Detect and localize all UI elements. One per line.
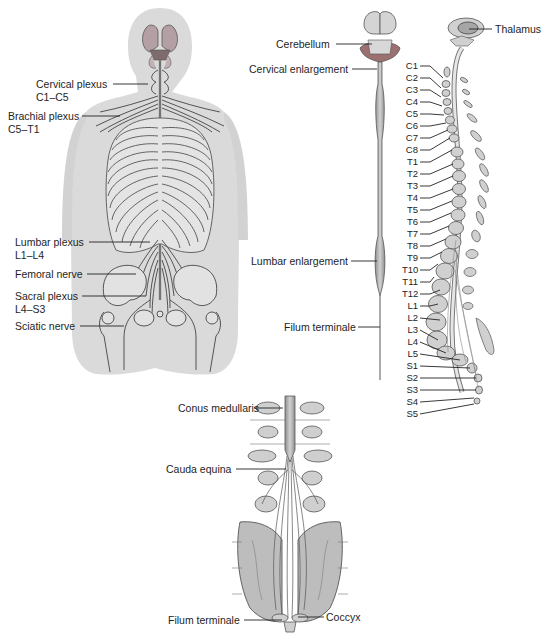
label-sublevel: L1–L4 [15,249,84,262]
vertebral-level-label: L3 [402,324,418,335]
label-thalamus: Thalamus [495,23,541,36]
vertebral-level-label: S1 [402,360,418,371]
label-text: Sacral plexus [15,290,78,303]
label-filum-terminale-cord: Filum terminale [284,321,356,334]
label-coccyx: Coccyx [326,611,360,624]
label-sciatic-nerve: Sciatic nerve [15,320,75,333]
vertebral-level-label: C6 [402,120,418,131]
vertebral-level-label: S4 [402,396,418,407]
label-femoral-nerve: Femoral nerve [15,268,83,281]
label-conus-medullaris: Conus medullaris [178,402,259,415]
label-sublevel: C1–C5 [36,91,107,104]
label-brachial-plexus: Brachial plexus C5–T1 [8,110,79,136]
vertebral-level-label: T7 [402,228,418,239]
vertebral-level-label: T10 [402,264,418,275]
vertebral-level-label: T2 [402,168,418,179]
label-text: Brachial plexus [8,110,79,123]
label-sublevel: C5–T1 [8,123,79,136]
label-text: Cervical plexus [36,78,107,91]
label-sacral-plexus: Sacral plexus L4–S3 [15,290,78,316]
vertebral-level-label: C4 [402,96,418,107]
label-filum-terminale-lower: Filum terminale [168,614,240,627]
vertebral-level-label: C1 [402,60,418,71]
vertebral-level-label: C2 [402,72,418,83]
label-cervical-plexus: Cervical plexus C1–C5 [36,78,107,104]
vertebral-level-label: L5 [402,348,418,359]
vertebral-level-label: T12 [402,288,418,299]
vertebral-level-label: T8 [402,240,418,251]
vertebral-level-label: T4 [402,192,418,203]
vertebral-level-label: C8 [402,144,418,155]
vertebral-level-label: C3 [402,84,418,95]
vertebral-level-label: T3 [402,180,418,191]
sagittal-vertebral-column [426,18,494,404]
label-cauda-equina: Cauda equina [166,463,231,476]
vertebral-level-label: T6 [402,216,418,227]
label-text: Sciatic nerve [15,320,75,333]
label-sublevel: L4–S3 [15,303,78,316]
posterior-body-figure [62,8,248,375]
label-text: Lumbar plexus [15,236,84,249]
vertebral-level-label: T9 [402,252,418,263]
label-cerebellum: Cerebellum [276,38,330,51]
label-lumbar-enlargement: Lumbar enlargement [251,255,348,268]
vertebral-level-label: S3 [402,384,418,395]
vertebral-level-label: S2 [402,372,418,383]
label-cervical-enlargement: Cervical enlargement [249,63,348,76]
vertebral-level-label: S5 [402,408,418,419]
vertebral-level-label: T1 [402,156,418,167]
isolated-spinal-cord [360,12,400,380]
vertebral-level-label: T5 [402,204,418,215]
label-lumbar-plexus: Lumbar plexus L1–L4 [15,236,84,262]
vertebral-level-label: T11 [402,276,418,287]
vertebral-level-label: C5 [402,108,418,119]
vertebral-level-label: L2 [402,312,418,323]
vertebral-level-label: L4 [402,336,418,347]
vertebral-level-label: C7 [402,132,418,143]
label-text: Femoral nerve [15,268,83,281]
vertebral-level-label: L1 [402,300,418,311]
cauda-equina-figure [232,396,348,632]
